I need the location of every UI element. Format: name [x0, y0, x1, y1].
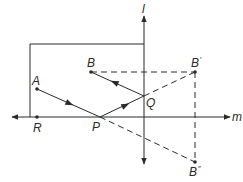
- label-b-prime: B: [191, 56, 199, 70]
- label-a: A: [31, 74, 40, 88]
- label-l: l: [142, 2, 145, 16]
- label-b-prime-mark: ′: [200, 55, 202, 64]
- point-b: [89, 70, 93, 74]
- label-p: P: [92, 120, 100, 134]
- label-b-double-prime: B: [189, 165, 197, 179]
- point-b-prime: [193, 70, 197, 74]
- point-b-double-prime: [193, 160, 197, 164]
- point-r: [35, 115, 39, 119]
- arrow-q-to-b-icon: [109, 78, 119, 87]
- reflection-diagram: l m A B B ′ B ″ P Q R: [0, 0, 243, 182]
- direction-arrows: [65, 78, 131, 110]
- arrow-a-to-p-icon: [65, 99, 75, 108]
- rectangle-frame: [30, 44, 144, 117]
- segment-q-bprime: [144, 72, 195, 96]
- label-r: R: [33, 121, 42, 135]
- label-q: Q: [146, 96, 155, 110]
- segment-p-bdoubleprime: [100, 117, 195, 162]
- light-path: [37, 72, 144, 117]
- label-b-double-prime-mark: ″: [198, 164, 201, 173]
- label-b: B: [87, 56, 95, 70]
- arrow-p-to-q-icon: [121, 101, 131, 110]
- label-m: m: [232, 110, 242, 124]
